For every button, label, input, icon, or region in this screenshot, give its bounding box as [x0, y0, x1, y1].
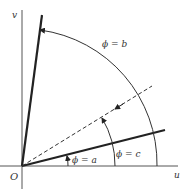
v-axis-label: v: [12, 10, 17, 20]
conformal-mapping-diagram: v u O ϕ = b ϕ = c ϕ = a: [0, 0, 189, 189]
phi-c-label: ϕ = c: [116, 149, 140, 159]
origin-label: O: [10, 171, 18, 182]
arc-phi-a: [67, 156, 68, 166]
u-axis-label: u: [174, 170, 180, 180]
dashed-direction-arrow: [115, 104, 123, 109]
arc-phi-b: [40, 30, 157, 166]
phi-a-label: ϕ = a: [72, 155, 97, 165]
phi-b-label: ϕ = b: [102, 39, 127, 49]
ray-phi-b: [22, 15, 42, 166]
